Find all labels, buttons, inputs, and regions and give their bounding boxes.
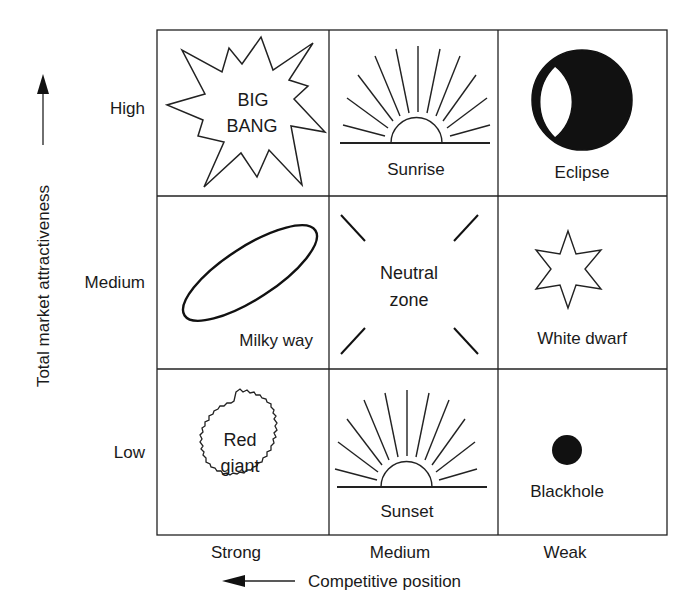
- cell-neutral-zone: Neutral zone: [341, 215, 478, 354]
- left-arrow-icon: [222, 575, 295, 587]
- cell-label-big: BIG: [237, 90, 268, 110]
- cell-label-neutral: Neutral: [380, 263, 438, 283]
- y-level-high: High: [110, 99, 145, 118]
- cell-label-giant: giant: [220, 456, 259, 476]
- x-level-strong: Strong: [211, 543, 261, 562]
- sunset-icon: [335, 390, 487, 487]
- y-axis: Total market attractiveness High Medium …: [34, 74, 146, 462]
- cell-eclipse: Eclipse: [532, 50, 632, 182]
- cell-label-milky-way: Milky way: [239, 331, 313, 350]
- cell-label-blackhole: Blackhole: [530, 482, 604, 501]
- cell-blackhole: Blackhole: [530, 435, 604, 501]
- ellipse-galaxy-icon: [170, 209, 329, 338]
- y-level-low: Low: [114, 443, 146, 462]
- cell-label-sunrise: Sunrise: [387, 160, 445, 179]
- cell-label-red: Red: [223, 430, 256, 450]
- x-level-medium: Medium: [370, 543, 430, 562]
- up-arrow-icon: [37, 74, 49, 145]
- cell-label-eclipse: Eclipse: [555, 163, 610, 182]
- four-diagonal-lines-icon: [341, 215, 478, 354]
- y-level-medium: Medium: [85, 273, 145, 292]
- cell-label-sunset: Sunset: [381, 502, 434, 521]
- filled-dot-icon: [552, 435, 582, 465]
- eclipse-icon: [532, 50, 632, 150]
- x-axis: Strong Medium Weak Competitive position: [211, 543, 587, 591]
- cell-red-giant: Red giant: [200, 389, 277, 476]
- cell-milky-way: Milky way: [170, 209, 329, 350]
- x-axis-title: Competitive position: [308, 572, 461, 591]
- six-point-star-icon: [536, 231, 601, 308]
- cell-label-zone: zone: [389, 290, 428, 310]
- cell-label-white-dwarf: White dwarf: [537, 329, 627, 348]
- cell-white-dwarf: White dwarf: [536, 231, 627, 348]
- x-level-weak: Weak: [543, 543, 587, 562]
- sunrise-icon: [340, 46, 490, 143]
- cell-label-bang: BANG: [226, 116, 277, 136]
- cell-big-bang: BIG BANG: [167, 37, 325, 187]
- market-matrix-diagram: Total market attractiveness High Medium …: [0, 0, 691, 616]
- y-axis-title: Total market attractiveness: [34, 185, 53, 387]
- cell-sunrise: Sunrise: [340, 46, 490, 179]
- cell-sunset: Sunset: [335, 390, 487, 521]
- starburst-icon: [167, 37, 325, 187]
